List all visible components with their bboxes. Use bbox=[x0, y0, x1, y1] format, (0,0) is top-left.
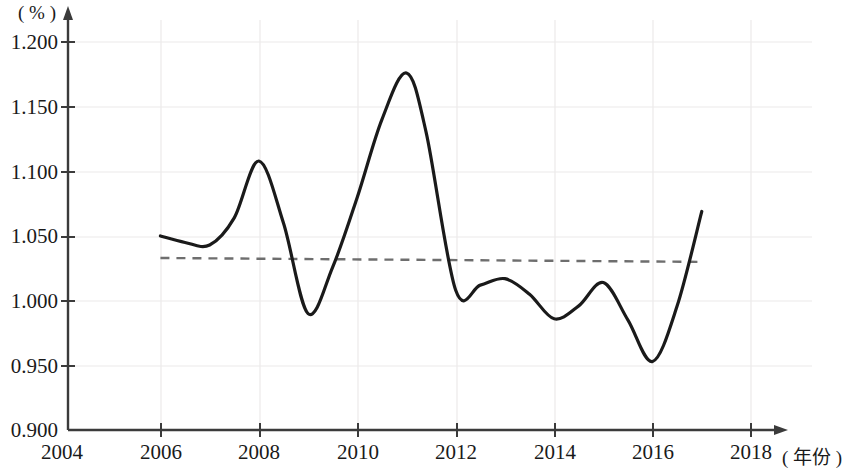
trend-line-dashed bbox=[160, 258, 701, 262]
y-axis bbox=[61, 6, 75, 430]
gridlines-vertical bbox=[161, 20, 751, 430]
x-axis bbox=[68, 423, 788, 437]
data-curve bbox=[160, 73, 701, 362]
